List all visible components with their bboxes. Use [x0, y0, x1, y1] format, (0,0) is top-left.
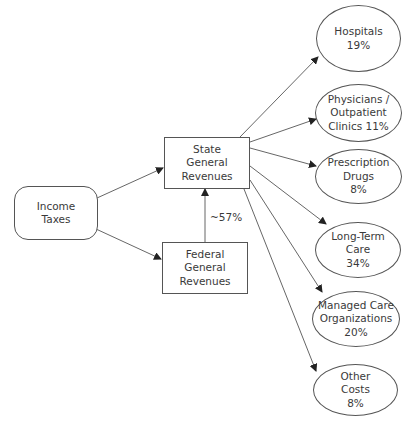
node-other-costs-line-2: Costs — [341, 383, 370, 397]
node-federal-general-revenues: Federal General Revenues — [162, 242, 248, 294]
node-long-term-care-line-1: Long-Term — [331, 230, 385, 244]
node-long-term-care: Long-Term Care 34% — [315, 222, 401, 278]
edge-state-to-physicians — [250, 119, 316, 142]
node-physicians: Physicians / Outpatient Clinics 11% — [315, 84, 402, 142]
node-other-costs-line-1: Other — [341, 370, 371, 384]
node-managed-care-line-3: 20% — [344, 326, 367, 340]
node-other-costs-line-3: 8% — [347, 397, 364, 411]
node-hospitals-line-2: 19% — [347, 39, 370, 53]
node-income-taxes-line-1: Income — [37, 200, 76, 214]
node-state-line-3: Revenues — [181, 170, 232, 184]
node-long-term-care-line-2: Care — [346, 243, 370, 257]
node-physicians-line-1: Physicians / — [328, 93, 390, 107]
node-physicians-line-2: Outpatient — [330, 106, 386, 120]
edge-state-to-prescription — [250, 148, 316, 166]
node-hospitals-line-1: Hospitals — [334, 25, 382, 39]
edge-state-to-managed-care — [250, 180, 322, 292]
node-state-line-1: State — [193, 143, 221, 157]
node-managed-care-line-2: Organizations — [320, 312, 393, 326]
edge-state-to-hospitals — [240, 57, 318, 137]
node-managed-care-line-1: Managed Care — [318, 299, 394, 313]
node-managed-care: Managed Care Organizations 20% — [312, 291, 400, 347]
node-state-general-revenues: State General Revenues — [164, 137, 250, 189]
node-prescription-line-1: Prescription — [328, 156, 390, 170]
edge-income-to-federal — [96, 229, 161, 259]
node-prescription-line-3: 8% — [350, 183, 367, 197]
edge-income-to-state — [97, 168, 163, 198]
node-physicians-line-3: Clinics 11% — [328, 120, 389, 134]
node-state-line-2: General — [186, 156, 227, 170]
edge-label-federal-share: ~57% — [210, 211, 242, 223]
node-income-taxes-line-2: Taxes — [42, 213, 71, 227]
node-prescription-drugs: Prescription Drugs 8% — [315, 149, 402, 204]
node-federal-line-3: Revenues — [179, 275, 230, 289]
node-federal-line-1: Federal — [186, 248, 225, 262]
node-income-taxes: Income Taxes — [14, 186, 98, 240]
node-long-term-care-line-3: 34% — [346, 257, 369, 271]
node-federal-line-2: General — [184, 261, 225, 275]
node-other-costs: Other Costs 8% — [313, 364, 398, 416]
node-prescription-line-2: Drugs — [343, 170, 374, 184]
node-hospitals: Hospitals 19% — [316, 5, 401, 72]
edge-state-to-other-costs — [244, 189, 316, 371]
